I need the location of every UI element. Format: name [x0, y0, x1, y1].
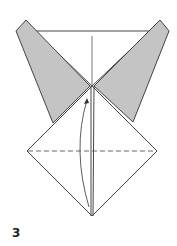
step-number: 3: [12, 226, 20, 240]
origami-diagram: [0, 0, 177, 246]
